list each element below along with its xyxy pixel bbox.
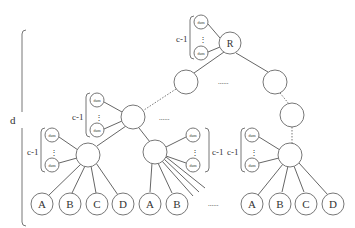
level3-left-group: c-1 ⋮ dum dum bbox=[72, 93, 145, 137]
dummy-label: dum bbox=[93, 98, 101, 103]
middle-group: dum dum ⋮ c-1 bbox=[143, 128, 224, 172]
dummy-label: dum bbox=[248, 133, 256, 138]
internal-node bbox=[121, 105, 145, 129]
ellipsis: ...... bbox=[218, 78, 229, 86]
count-label: c-1 bbox=[27, 147, 39, 157]
vdots: ⋮ bbox=[50, 148, 58, 157]
leaf-label: C bbox=[302, 198, 309, 210]
leaf-label: A bbox=[248, 198, 256, 210]
dummy-label: dum bbox=[189, 163, 197, 168]
root-group: c-1 ⋮ dum dum R bbox=[176, 15, 241, 60]
count-label: c-1 bbox=[212, 147, 224, 157]
leaf-label: B bbox=[66, 198, 73, 210]
root-label: R bbox=[227, 38, 234, 49]
ellipsis: ...... bbox=[159, 114, 170, 122]
internal-node bbox=[76, 143, 100, 167]
dummy-label: dum bbox=[93, 128, 101, 133]
leaf-label: B bbox=[173, 198, 180, 210]
leaf-label: A bbox=[146, 198, 154, 210]
leaf-label: A bbox=[38, 198, 46, 210]
vdots: ⋮ bbox=[199, 35, 207, 44]
count-label: c-1 bbox=[227, 147, 239, 157]
depth-label: d bbox=[10, 114, 16, 126]
dummy-label: dum bbox=[48, 163, 56, 168]
dummy-label: dum bbox=[197, 51, 205, 56]
vdots: ⋮ bbox=[95, 113, 103, 122]
leaf-label: B bbox=[276, 198, 283, 210]
internal-node bbox=[143, 140, 167, 164]
leaf-label: C bbox=[93, 198, 100, 210]
internal-node bbox=[278, 143, 302, 167]
tree-diagram: d bbox=[0, 0, 355, 228]
leaf-label: D bbox=[119, 198, 127, 210]
count-label: c-1 bbox=[176, 34, 188, 44]
ellipsis: ...... bbox=[208, 200, 219, 208]
leaves: A B C D A B ...... A B C D bbox=[31, 193, 344, 215]
right-bottom-group: c-1 ⋮ dum dum bbox=[227, 128, 302, 172]
dummy-label: dum bbox=[197, 20, 205, 25]
dummy-label: dum bbox=[189, 133, 197, 138]
internal-node bbox=[280, 103, 304, 127]
dummy-label: dum bbox=[48, 133, 56, 138]
depth-bracket: d bbox=[10, 30, 26, 226]
internal-node bbox=[174, 70, 198, 94]
internal-node bbox=[263, 70, 287, 94]
leaf-label: D bbox=[329, 198, 337, 210]
level4-left-group: c-1 ⋮ dum dum bbox=[27, 128, 100, 172]
dummy-label: dum bbox=[248, 163, 256, 168]
vdots: ⋮ bbox=[250, 148, 258, 157]
vdots: ⋮ bbox=[191, 148, 199, 157]
count-label: c-1 bbox=[72, 112, 84, 122]
